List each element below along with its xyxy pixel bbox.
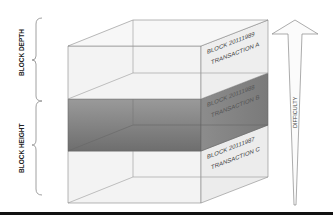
block-depth-brace <box>32 18 42 101</box>
block-depth-label: BLOCK DEPTH <box>18 29 25 76</box>
blockchain-diagram: BLOCK DEPTH BLOCK HEIGHT BLOCK 20111989 … <box>0 0 333 220</box>
block-height-label: BLOCK HEIGHT <box>18 124 25 174</box>
difficulty-label: DIFFICULTY <box>292 96 298 128</box>
block-height-brace <box>32 101 42 195</box>
bottom-rule <box>0 212 333 215</box>
